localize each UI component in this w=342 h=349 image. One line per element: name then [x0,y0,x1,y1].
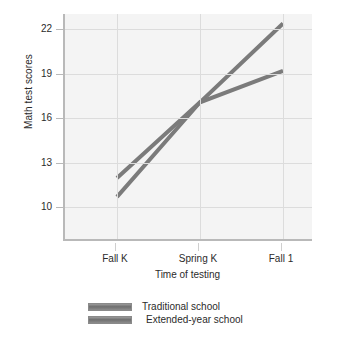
chart-legend: Traditional school Extended-year school [88,300,298,326]
data-lines-svg [65,14,312,239]
gridline-x-spring-k [200,14,201,239]
gridline-y-16 [65,118,312,119]
legend-label-traditional-school: Traditional school [142,301,220,312]
plot-inner [65,14,312,239]
y-tick-mark-16 [56,118,63,119]
gridline-y-19 [65,74,312,75]
x-axis-title: Time of testing [63,269,312,280]
y-tick-mark-22 [56,29,63,30]
legend-label-extended-year-school: Extended-year school [146,314,243,325]
line-chart-figure: Math test scores 22 19 16 13 10 [0,0,342,349]
legend-swatch-icon-traditional-school [88,303,132,311]
y-tick-mark-19 [56,74,63,75]
x-tick-mark-fall-1 [281,243,282,251]
x-tick-label-fall-1: Fall 1 [241,253,321,264]
y-tick-label-10: 10 [12,202,52,212]
y-tick-label-16: 16 [12,113,52,123]
gridline-y-13 [65,163,312,164]
gridline-x-fall-1 [283,14,284,239]
gridline-x-fall-k [117,14,118,239]
legend-swatch-icon-extended-year-school [88,316,132,324]
x-tick-mark-fall-k [115,243,116,251]
y-tick-label-13: 13 [12,158,52,168]
y-tick-mark-13 [56,163,63,164]
y-axis-title: Math test scores [23,12,34,172]
gridline-y-22 [65,29,312,30]
x-tick-label-fall-k: Fall K [75,253,155,264]
plot-area [63,14,312,241]
legend-item-extended-year-school: Extended-year school [88,313,298,326]
y-tick-label-22: 22 [12,24,52,34]
gridline-y-10 [65,207,312,208]
y-tick-mark-10 [56,207,63,208]
legend-item-traditional-school: Traditional school [88,300,298,313]
x-tick-label-spring-k: Spring K [158,253,238,264]
x-tick-mark-spring-k [198,243,199,251]
y-tick-label-19: 19 [12,69,52,79]
